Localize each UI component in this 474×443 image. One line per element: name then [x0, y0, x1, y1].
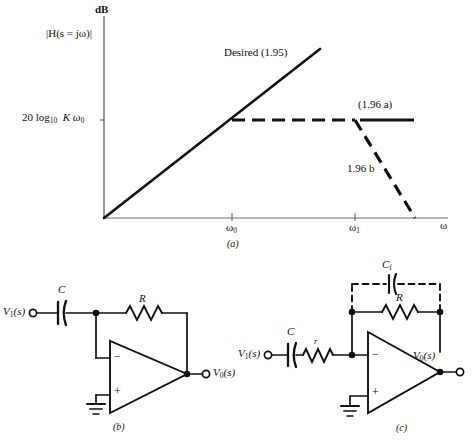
- circuit-b-opamp-minus: −: [114, 350, 121, 362]
- y-axis-label-text: |H(s = jω)|: [46, 27, 92, 39]
- circuit-c-input-arg: (s): [248, 347, 260, 359]
- panel-label-b: (b): [113, 421, 125, 432]
- circuit-b-input-arg: (s): [13, 305, 25, 317]
- circuit-b-opamp-body: [110, 341, 187, 413]
- circuit-c-opamp-body: [368, 332, 440, 413]
- figure-vector-layer: [0, 0, 474, 443]
- circuit-c-output-V: V: [413, 349, 420, 361]
- series-bound: [232, 120, 415, 218]
- circuit-c-input-label: V1(s): [238, 348, 260, 361]
- circuit-c-feedback-cap-label: Cf: [382, 259, 392, 272]
- circuit-c-resistor-R: [382, 305, 418, 319]
- circuit-c-output-label: V0(s): [413, 350, 435, 363]
- x-axis-label: ω: [440, 220, 447, 231]
- circuit-b-output-terminal: [202, 370, 209, 377]
- x-tick-label-omega1: ω1: [349, 222, 360, 235]
- panel-label-c: (c): [396, 422, 407, 433]
- annotation-1p96a: (1.96 a): [358, 99, 392, 110]
- circuit-b-res-label: R: [139, 293, 146, 304]
- circuit-c-output-terminal: [456, 368, 463, 375]
- circuit-b-output-arg: (s): [223, 366, 235, 378]
- circuit-c-input-terminal: [264, 351, 271, 358]
- x-tick-label-omega0: ω0: [226, 222, 237, 235]
- y-tick-label-prefix: 20 log: [22, 111, 50, 123]
- circuit-c-opamp-minus: −: [372, 348, 379, 360]
- circuit-c-resistor-r: [303, 349, 333, 362]
- y-tick-label-gain-sub: 0: [81, 116, 85, 125]
- figure-root: dB |H(s = jω)| 20 log10 K ω0 Desired (1.…: [0, 0, 474, 443]
- circuit-c-cf-sub: f: [389, 263, 392, 272]
- y-tick-label-gain-text: K ω: [63, 111, 81, 123]
- circuit-b-input-terminal: [29, 309, 36, 316]
- annotation-desired: Desired (1.95): [224, 47, 288, 58]
- circuit-c-vector: [264, 274, 463, 416]
- annotation-1p96a-text: (1.96 a): [358, 98, 392, 110]
- annotation-1p96b-text: 1.96 b: [347, 162, 375, 174]
- circuit-c-series-res-label: r: [314, 337, 318, 346]
- x-tick-omega0-sub: 0: [233, 226, 237, 235]
- annotation-1p96b: 1.96 b: [347, 163, 375, 174]
- circuit-c-input-V: V: [238, 347, 245, 359]
- y-axis-label: |H(s = jω)|: [46, 28, 92, 39]
- circuit-c-opamp-plus: +: [372, 386, 379, 398]
- circuit-b-output-label: V0(s): [213, 367, 235, 380]
- circuit-b-opamp-plus: +: [114, 385, 121, 397]
- circuit-c-output-arg: (s): [423, 349, 435, 361]
- y-axis-unit-label: dB: [95, 4, 108, 15]
- circuit-b-input-label: V1(s): [3, 306, 25, 319]
- y-tick-label-gain: 20 log10 K ω0: [22, 112, 84, 125]
- circuit-b-cap-label: C: [58, 284, 65, 295]
- circuit-b-resistor-R: [126, 306, 162, 320]
- series-desired: [104, 49, 320, 218]
- circuit-c-res-label: R: [396, 292, 403, 303]
- circuit-b-output-V: V: [213, 366, 220, 378]
- circuit-b-input-V: V: [3, 305, 10, 317]
- circuit-c-cap-label: C: [287, 326, 294, 337]
- x-tick-omega1-sub: 1: [356, 226, 360, 235]
- panel-label-a: (a): [227, 238, 239, 249]
